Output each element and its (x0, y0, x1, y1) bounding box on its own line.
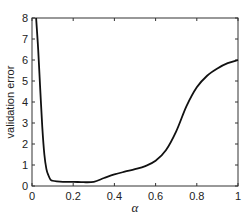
x-axis-ticks: 00.20.40.60.81 (29, 18, 241, 202)
y-tick-label: 8 (22, 12, 28, 24)
y-tick-label: 0 (22, 180, 28, 192)
y-axis-label: validation error (4, 65, 16, 138)
y-axis-ticks: 012345678 (22, 12, 238, 192)
y-tick-label: 2 (22, 138, 28, 150)
x-axis-label: α (132, 200, 140, 215)
plot-area: 00.20.40.60.81 012345678 (22, 12, 241, 202)
validation-error-line (36, 18, 238, 182)
axes-frame (32, 18, 238, 186)
x-tick-label: 0.2 (66, 190, 81, 202)
x-tick-label: 0.4 (107, 190, 122, 202)
x-tick-label: 1 (235, 190, 241, 202)
x-tick-label: 0.8 (189, 190, 204, 202)
y-tick-label: 5 (22, 75, 28, 87)
y-tick-label: 4 (22, 96, 28, 108)
line-chart: 00.20.40.60.81 012345678 validation erro… (0, 0, 252, 222)
y-tick-label: 6 (22, 54, 28, 66)
y-tick-label: 1 (22, 159, 28, 171)
x-tick-label: 0.6 (148, 190, 163, 202)
y-tick-label: 3 (22, 117, 28, 129)
x-tick-label: 0 (29, 190, 35, 202)
y-tick-label: 7 (22, 33, 28, 45)
